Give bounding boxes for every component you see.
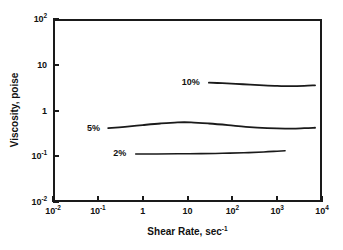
series-line-2pct <box>136 151 285 154</box>
plot-area <box>53 19 322 202</box>
x-tick-label: 10 <box>183 206 193 216</box>
x-tick-mark <box>187 196 189 202</box>
series-line-10pct <box>209 83 315 86</box>
y-tick-mark <box>53 155 59 157</box>
x-tick-label: 104 <box>315 206 328 216</box>
y-axis-title: Viscosity, poise <box>9 73 20 148</box>
y-tick-label: 10 <box>11 60 47 70</box>
x-tick-label: 1 <box>140 206 145 216</box>
x-tick-mark <box>97 196 99 202</box>
x-tick-label: 10-2 <box>45 206 60 216</box>
y-tick-mark <box>53 64 59 66</box>
y-tick-mark <box>53 110 59 112</box>
x-tick-mark <box>231 196 233 202</box>
y-tick-mark <box>53 18 59 20</box>
chart-figure: 10-210-1110102103104 10210110-110-2 10%5… <box>0 0 343 250</box>
y-tick-label: 102 <box>11 14 47 24</box>
x-tick-label: 103 <box>270 206 283 216</box>
y-tick-label: 10-1 <box>11 151 47 161</box>
x-tick-mark <box>142 196 144 202</box>
series-label-5pct: 5% <box>87 123 100 133</box>
series-label-2pct: 2% <box>113 148 126 158</box>
x-tick-label: 10-1 <box>90 206 105 216</box>
x-tick-mark <box>321 196 323 202</box>
series-label-10pct: 10% <box>182 77 200 87</box>
x-axis-title: Shear Rate, sec-1 <box>53 226 322 237</box>
x-tick-label: 102 <box>226 206 239 216</box>
series-line-5pct <box>108 122 315 128</box>
y-tick-label: 10-2 <box>11 197 47 207</box>
x-tick-mark <box>276 196 278 202</box>
y-tick-mark <box>53 201 59 203</box>
